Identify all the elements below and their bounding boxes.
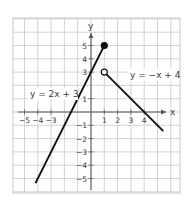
equation-label: y = −x + 4 (130, 70, 181, 80)
y-tick-label: −1 (76, 121, 87, 130)
equation-label: y = 2x + 3 (30, 89, 79, 99)
y-tick-label: −2 (76, 135, 87, 144)
y-tick-label: −3 (76, 148, 87, 157)
x-tick-label: −3 (46, 116, 57, 125)
closed-endpoint-icon (101, 43, 107, 49)
x-axis-label: x (170, 107, 176, 117)
x-tick-label: 4 (142, 116, 147, 125)
y-axis-label: y (88, 21, 94, 31)
function-line (36, 46, 104, 183)
y-tick-label: 4 (82, 55, 87, 64)
y-axis-arrow-icon (89, 33, 94, 38)
x-tick-label: −5 (19, 116, 30, 125)
x-tick-label: 2 (115, 116, 120, 125)
piecewise-function-graph: xy −5−4−312345431−1−2−3−4−5 y = 2x + 3y … (0, 0, 191, 207)
y-tick-label: 1 (82, 95, 87, 104)
open-endpoint-icon (101, 69, 107, 75)
x-tick-label: 3 (129, 116, 134, 125)
grid (13, 18, 180, 193)
y-tick-label: 5 (82, 42, 87, 51)
y-tick-label: −4 (76, 161, 87, 170)
x-axis-arrow-icon (161, 110, 166, 115)
y-tick-label: −5 (76, 175, 87, 184)
y-tick-label: 3 (82, 68, 87, 77)
axes: xy (18, 21, 176, 190)
x-tick-label: 1 (102, 116, 107, 125)
x-tick-label: −4 (32, 116, 43, 125)
